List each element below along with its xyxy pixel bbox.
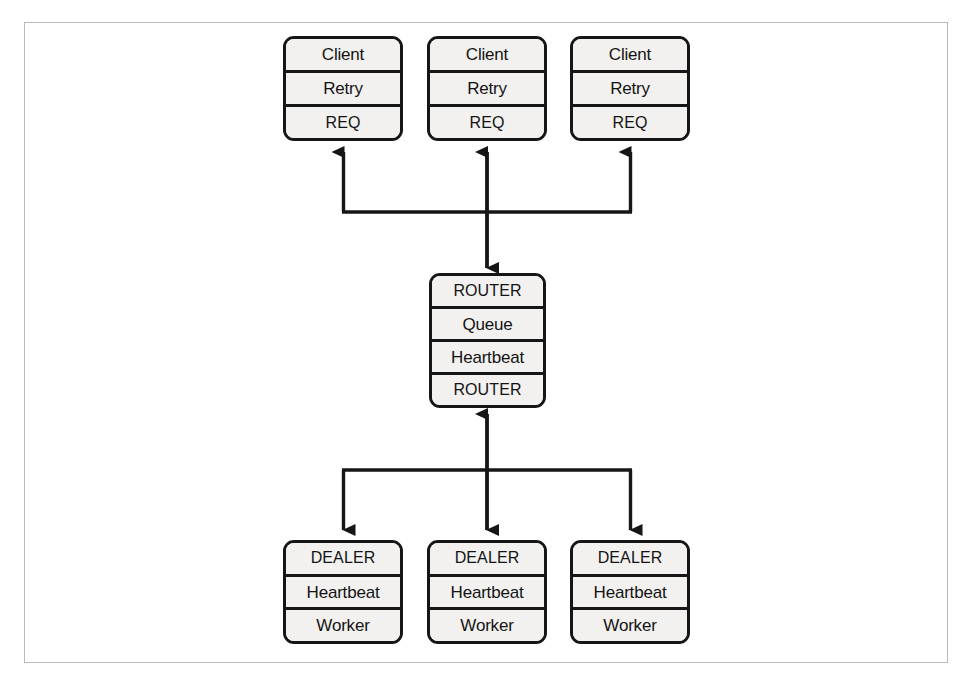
broker-node[interactable]: ROUTER Queue Heartbeat ROUTER [429, 273, 546, 408]
worker-3-heartbeat: Heartbeat [573, 577, 687, 611]
worker-1-socket: DEALER [286, 543, 400, 577]
client-2-retry: Retry [430, 73, 544, 107]
client-2-role: Client [430, 39, 544, 73]
worker-3-socket: DEALER [573, 543, 687, 577]
client-1-socket: REQ [286, 107, 400, 138]
worker-1-heartbeat: Heartbeat [286, 577, 400, 611]
broker-frontend-socket: ROUTER [432, 276, 543, 309]
worker-node-3[interactable]: DEALER Heartbeat Worker [570, 540, 690, 644]
worker-2-socket: DEALER [430, 543, 544, 577]
worker-node-1[interactable]: DEALER Heartbeat Worker [283, 540, 403, 644]
worker-node-2[interactable]: DEALER Heartbeat Worker [427, 540, 547, 644]
client-1-retry: Retry [286, 73, 400, 107]
broker-queue: Queue [432, 309, 543, 342]
client-node-2[interactable]: Client Retry REQ [427, 36, 547, 141]
worker-2-heartbeat: Heartbeat [430, 577, 544, 611]
worker-3-role: Worker [573, 610, 687, 641]
client-3-retry: Retry [573, 73, 687, 107]
diagram-canvas: Client Retry REQ Client Retry REQ Client… [0, 0, 974, 678]
client-node-3[interactable]: Client Retry REQ [570, 36, 690, 141]
client-3-socket: REQ [573, 107, 687, 138]
worker-2-role: Worker [430, 610, 544, 641]
client-1-role: Client [286, 39, 400, 73]
broker-backend-socket: ROUTER [432, 375, 543, 405]
client-3-role: Client [573, 39, 687, 73]
worker-1-role: Worker [286, 610, 400, 641]
client-node-1[interactable]: Client Retry REQ [283, 36, 403, 141]
client-2-socket: REQ [430, 107, 544, 138]
broker-heartbeat: Heartbeat [432, 342, 543, 375]
